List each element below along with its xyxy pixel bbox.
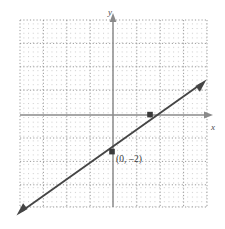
- y-intercept-point-label: (0, –2): [116, 155, 142, 165]
- graph-canvas: [0, 0, 225, 229]
- x-axis-label: x: [211, 123, 215, 132]
- point-x-intercept: [147, 112, 153, 118]
- coordinate-plane-figure: y x (0, –2): [0, 0, 225, 229]
- y-axis-label: y: [108, 8, 112, 17]
- point-y-intercept: [109, 149, 115, 155]
